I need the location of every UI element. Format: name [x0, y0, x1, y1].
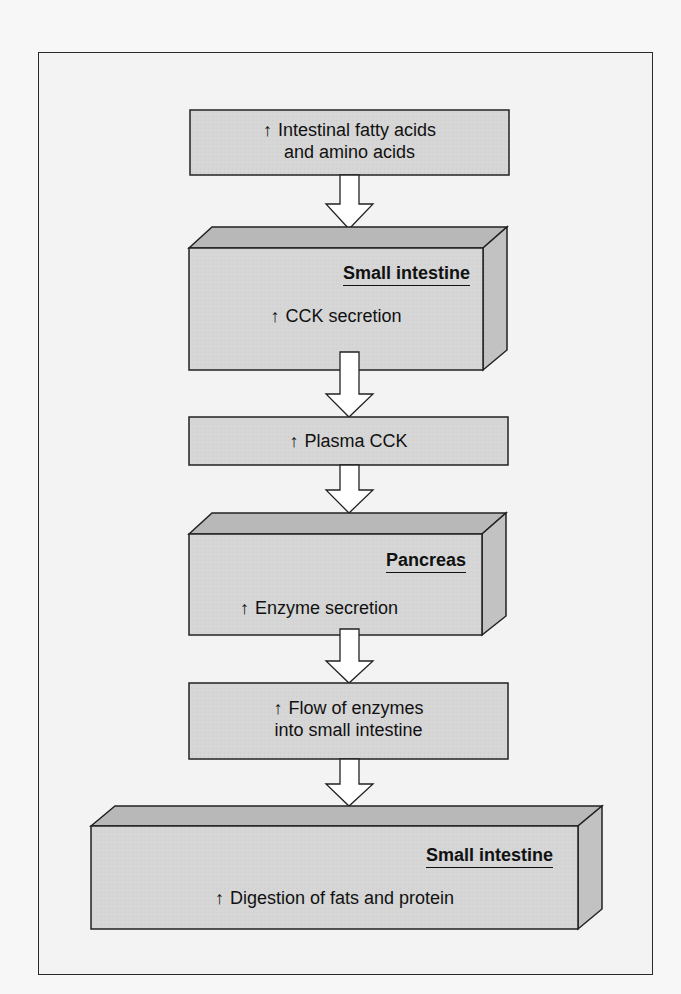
step-1-line-1: ↑Intestinal fatty acids [190, 119, 509, 141]
step-1-line-2: and amino acids [190, 141, 509, 163]
step-3-text: ↑Plasma CCK [189, 430, 508, 452]
increase-arrow-icon: ↑ [289, 431, 298, 451]
increase-arrow-icon: ↑ [273, 698, 282, 718]
flow-arrow-1 [326, 175, 373, 229]
flow-arrow-5 [326, 759, 373, 806]
flow-arrow-3 [326, 465, 373, 513]
step-1-text: ↑Intestinal fatty acids and amino acids [190, 119, 509, 163]
step-4-text: ↑Enzyme secretion [189, 597, 449, 619]
step-5-line-2: into small intestine [189, 719, 508, 741]
increase-arrow-icon: ↑ [215, 888, 224, 908]
increase-arrow-icon: ↑ [270, 306, 279, 326]
organ-label-small-intestine-2: Small intestine [426, 844, 553, 868]
flow-arrow-4 [326, 629, 373, 683]
box-step-2 [189, 227, 507, 370]
increase-arrow-icon: ↑ [263, 120, 272, 140]
step-5-line-1: ↑Flow of enzymes [189, 697, 508, 719]
organ-label-pancreas: Pancreas [386, 549, 466, 573]
organ-label-small-intestine: Small intestine [343, 262, 470, 286]
step-6-text: ↑Digestion of fats and protein [91, 887, 578, 909]
step-2-text: ↑CCK secretion [189, 305, 483, 327]
increase-arrow-icon: ↑ [240, 598, 249, 618]
step-5-text: ↑Flow of enzymes into small intestine [189, 697, 508, 741]
